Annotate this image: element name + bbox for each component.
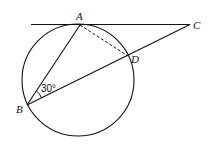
angle-label-30: 30°	[41, 83, 56, 94]
label-a: A	[75, 10, 83, 22]
label-d: D	[130, 53, 139, 65]
label-c: C	[193, 19, 201, 31]
dashed-chord-ad	[80, 25, 128, 56]
label-b: B	[16, 103, 23, 115]
figure-canvas: A C D B 30°	[0, 0, 210, 145]
geometry-figure: A C D B 30°	[0, 0, 210, 145]
